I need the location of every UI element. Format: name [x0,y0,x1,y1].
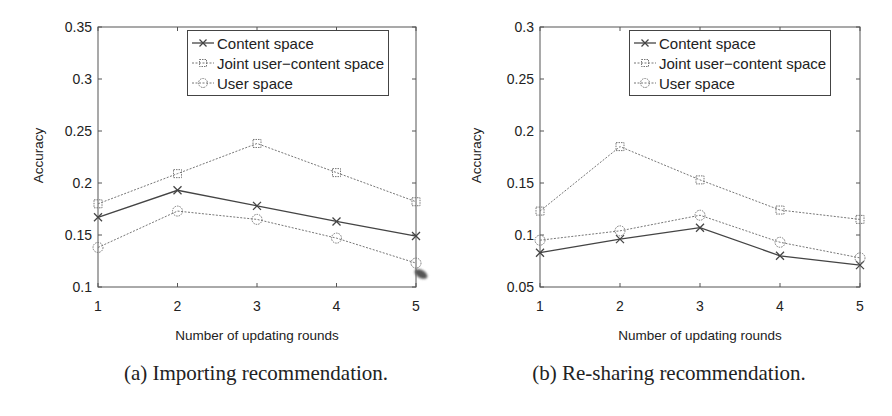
series-x [536,224,864,269]
series-square [536,143,864,224]
square-line-legend-icon [191,56,215,70]
x-tick-label: 4 [776,298,784,314]
y-tick-label: 0.1 [73,279,93,295]
square-marker-icon [253,139,261,147]
legend-item: Content space [191,33,384,53]
y-tick-label: 0.3 [73,71,93,87]
legend-label: Joint user−content space [659,55,826,72]
y-tick-label: 0.3 [515,19,535,35]
legend-item: User space [191,73,384,93]
circle-marker-icon [173,206,183,216]
y-tick-label: 0.1 [515,227,535,243]
series-circle [535,210,865,263]
y-axis-label: Accuracy [31,116,46,196]
x-tick-label: 1 [94,298,102,314]
legend-item: Content space [633,33,826,53]
series-square [94,139,420,207]
square-line-legend-icon [633,56,657,70]
series-x [94,186,420,240]
chart-panel-a: 0.10.150.20.250.30.3512345 Accuracy Numb… [0,0,446,416]
circle-line-legend-icon [191,76,215,90]
legend-label: User space [659,75,735,92]
x-tick-label: 3 [253,298,261,314]
chart-panel-b: 0.050.10.150.20.250.312345 Accuracy Numb… [446,0,892,416]
x-tick-label: 3 [696,298,704,314]
legend-label: Content space [659,35,756,52]
series-circle [93,206,421,268]
y-axis-label: Accuracy [469,116,484,196]
legend-label: Content space [217,35,314,52]
legend-item: Joint user−content space [633,53,826,73]
x-axis-label: Number of updating rounds [540,328,860,343]
y-tick-label: 0.25 [65,123,92,139]
x-tick-label: 1 [536,298,544,314]
legend-item: Joint user−content space [191,53,384,73]
y-tick-label: 0.2 [73,175,93,191]
x-tick-label: 2 [174,298,182,314]
y-tick-label: 0.25 [507,71,534,87]
x-tick-label: 5 [856,298,864,314]
y-tick-label: 0.2 [515,123,535,139]
legend-label: Joint user−content space [217,55,384,72]
figure-caption: (b) Re-sharing recommendation. [406,361,892,386]
y-tick-label: 0.15 [507,175,534,191]
x-tick-label: 4 [333,298,341,314]
legend: Content spaceJoint user−content spaceUse… [187,30,389,96]
circle-marker-icon [252,214,262,224]
square-marker-icon [333,169,341,177]
x-tick-label: 5 [412,298,420,314]
y-tick-label: 0.15 [65,227,92,243]
x-tick-label: 2 [616,298,624,314]
legend-item: User space [633,73,826,93]
legend-label: User space [217,75,293,92]
legend: Content spaceJoint user−content spaceUse… [629,30,831,96]
x-line-legend-icon [633,36,657,50]
x-axis-label: Number of updating rounds [98,328,416,343]
circle-line-legend-icon [633,76,657,90]
y-tick-label: 0.35 [65,19,92,35]
x-line-legend-icon [191,36,215,50]
y-tick-label: 0.05 [507,279,534,295]
